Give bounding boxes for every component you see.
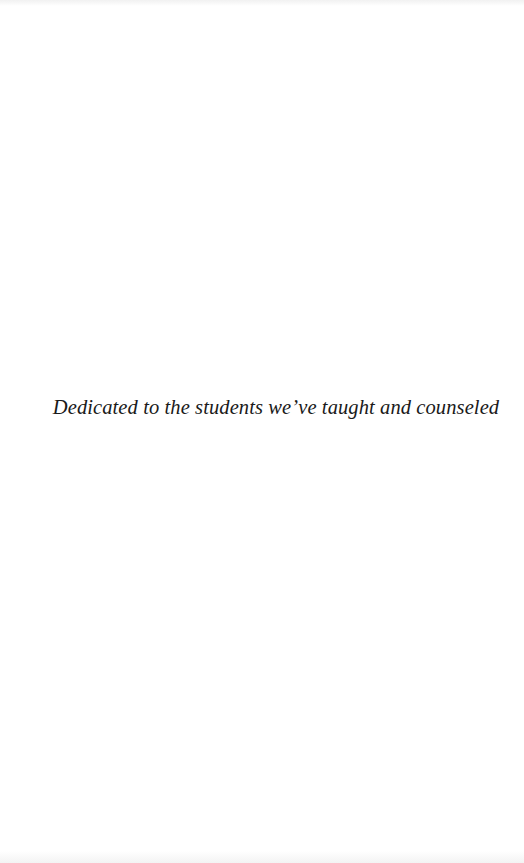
scan-edge-bottom	[0, 851, 524, 863]
scan-edge-top	[0, 0, 524, 6]
book-page: Dedicated to the students we’ve taught a…	[0, 0, 524, 863]
dedication-text: Dedicated to the students we’ve taught a…	[0, 394, 524, 420]
